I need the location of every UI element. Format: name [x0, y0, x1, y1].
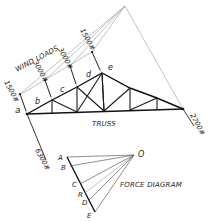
load-1500-apex: 1500# — [78, 27, 96, 52]
load-1500-left: 1500# — [2, 79, 20, 104]
point-e: E — [87, 212, 92, 220]
reaction-arrows — [27, 109, 194, 160]
label-d: d — [86, 70, 92, 79]
point-a: A — [57, 154, 63, 162]
label-b: b — [35, 97, 40, 106]
pole-o: O — [138, 150, 144, 159]
reaction-2700: 2700# — [188, 112, 206, 137]
truss-title: TRUSS — [92, 120, 116, 128]
point-r: R — [78, 191, 83, 199]
label-e: e — [108, 63, 113, 72]
point-b: B — [61, 164, 66, 172]
label-a: a — [15, 105, 21, 115]
label-c: c — [60, 85, 65, 94]
point-c: C — [72, 181, 77, 189]
load-values: 1500# 3000# 3000# 1500# 6300# 2700# — [2, 27, 206, 172]
force-diagram-title: FORCE DIAGRAM — [120, 181, 182, 189]
point-d: D — [82, 199, 88, 207]
reaction-6300: 6300# — [33, 147, 51, 172]
truss-force-diagram: a b c d e WIND LOADS TRUSS FORCE DIAGRAM… — [0, 0, 214, 221]
